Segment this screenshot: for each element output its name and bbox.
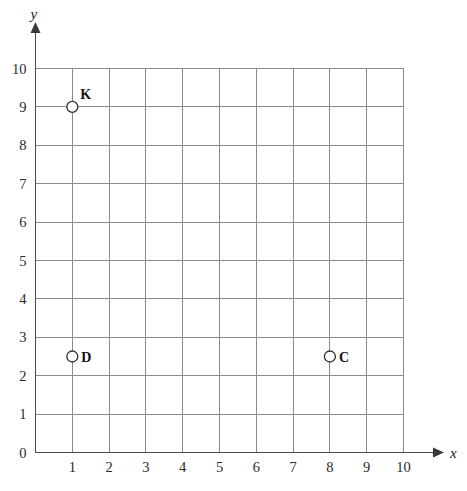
x-tick-label: 7 (289, 459, 296, 475)
y-tick-label: 6 (19, 214, 26, 230)
y-tick-label: 7 (19, 176, 26, 192)
x-tick-label: 10 (396, 459, 411, 475)
point-label: D (81, 350, 91, 365)
point-label: K (80, 87, 91, 102)
y-tick-label: 5 (19, 253, 26, 269)
x-tick-label: 3 (142, 459, 149, 475)
data-point: K (67, 87, 92, 113)
y-axis-label: y (29, 6, 38, 22)
x-tick-label: 5 (216, 459, 223, 475)
y-axis-tick-labels: 012345678910 (12, 61, 27, 461)
y-tick-label: 2 (19, 368, 26, 384)
x-tick-label: 6 (253, 459, 260, 475)
point-marker-circle (67, 101, 78, 112)
y-tick-label: 8 (19, 137, 26, 153)
x-tick-label: 8 (326, 459, 333, 475)
point-label: C (339, 350, 349, 365)
y-tick-label: 0 (19, 445, 26, 461)
x-axis-arrow-icon (433, 448, 444, 458)
point-marker-circle (324, 351, 335, 362)
y-tick-label: 10 (12, 61, 27, 77)
y-tick-label: 4 (19, 291, 27, 307)
x-tick-label: 1 (69, 459, 76, 475)
data-point: D (67, 350, 92, 365)
coordinate-grid-plot: 12345678910 012345678910 x y KDC (0, 0, 467, 491)
point-marker-circle (67, 351, 78, 362)
x-tick-label: 4 (179, 459, 187, 475)
x-axis-label: x (449, 445, 457, 461)
x-tick-label: 2 (105, 459, 112, 475)
y-tick-label: 3 (19, 329, 26, 345)
x-axis-tick-labels: 12345678910 (69, 459, 411, 475)
data-point: C (324, 350, 349, 365)
x-tick-label: 9 (363, 459, 370, 475)
y-axis-arrow-icon (31, 22, 41, 33)
y-tick-label: 1 (19, 406, 26, 422)
plot-canvas: 12345678910 012345678910 x y KDC (0, 0, 467, 491)
y-tick-label: 9 (19, 99, 26, 115)
axis-lines (31, 22, 445, 458)
